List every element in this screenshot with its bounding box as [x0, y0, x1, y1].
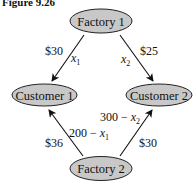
- flow-label-f2-c1: 200 − x1: [69, 126, 109, 142]
- flow-label-f2-c2: 300 − x2: [100, 110, 140, 126]
- cost-label-f2-c1: $36: [45, 136, 63, 150]
- node-factory-1: Factory 1: [70, 9, 132, 33]
- node-customer-2: Customer 2: [126, 84, 192, 106]
- node-label: Factory 1: [77, 15, 125, 29]
- node-factory-2: Factory 2: [70, 157, 132, 181]
- figure-title: Figure 9.26: [2, 0, 55, 8]
- cost-label-f2-c2: $30: [139, 136, 157, 150]
- transportation-network-diagram: Figure 9.26 Factory 1 Customer 1 Custome…: [0, 0, 196, 193]
- node-customer-1: Customer 1: [12, 84, 77, 106]
- node-label: Customer 2: [130, 89, 188, 103]
- cost-label-f1-c1: $30: [45, 44, 63, 58]
- node-label: Factory 2: [77, 162, 125, 176]
- node-label: Customer 1: [16, 89, 74, 103]
- cost-label-f1-c2: $25: [140, 44, 158, 58]
- flow-label-f1-c2: x2: [120, 52, 130, 68]
- flow-label-f1-c1: x1: [70, 51, 80, 67]
